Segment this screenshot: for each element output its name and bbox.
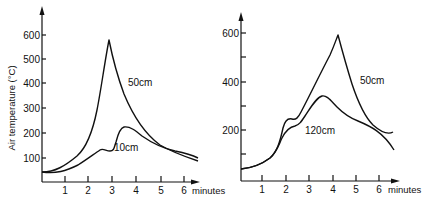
x-tick-label: 4 <box>330 184 336 195</box>
y-tick-label: 300 <box>23 103 40 114</box>
x-axis-arrow-icon <box>391 179 400 184</box>
y-tick-label: 200 <box>23 128 40 139</box>
series-label-10cm: 10cm <box>114 142 138 153</box>
x-tick-label: 2 <box>283 184 289 195</box>
y-tick-label: 200 <box>222 125 239 136</box>
y-axis-label: Air temperature (°C) <box>6 65 17 150</box>
y-axis-arrow-icon <box>239 12 244 21</box>
x-axis-arrow-icon <box>191 180 200 185</box>
x-tick-label: 1 <box>259 184 265 195</box>
y-tick-label: 600 <box>222 28 239 39</box>
left-chart: 600 500 400 300 200 100 1 2 3 4 5 6 minu… <box>6 6 226 196</box>
right-y-ticks: 600 400 200 <box>222 28 246 155</box>
y-tick-label: 100 <box>23 153 40 164</box>
x-tick-label: 5 <box>353 184 359 195</box>
x-tick-label: 2 <box>85 185 91 196</box>
x-tick-label: 3 <box>306 184 312 195</box>
x-tick-label: 3 <box>109 185 115 196</box>
x-axis-label: minutes <box>388 184 422 195</box>
x-tick-label: 6 <box>181 185 187 196</box>
x-tick-label: 4 <box>133 185 139 196</box>
y-tick-label: 400 <box>222 77 239 88</box>
series-label-120cm: 120cm <box>305 125 335 136</box>
series-50cm-right <box>241 35 393 169</box>
y-tick-label: 500 <box>23 54 40 65</box>
right-x-ticks: 1 2 3 4 5 6 minutes <box>259 175 421 195</box>
series-label-50cm: 50cm <box>128 77 152 88</box>
x-tick-label: 5 <box>158 185 164 196</box>
series-label-50cm: 50cm <box>360 75 384 86</box>
y-tick-label: 400 <box>23 78 40 89</box>
y-tick-label: 600 <box>23 30 40 41</box>
x-tick-label: 6 <box>376 184 382 195</box>
y-axis-arrow-icon <box>40 6 45 15</box>
left-x-ticks: 1 2 3 4 5 6 minutes <box>62 176 225 196</box>
right-chart: 600 400 200 1 2 3 4 5 6 minutes 50cm 120… <box>222 12 421 195</box>
figure: 600 500 400 300 200 100 1 2 3 4 5 6 minu… <box>0 0 425 200</box>
x-tick-label: 1 <box>62 185 68 196</box>
x-axis-label: minutes <box>192 185 226 196</box>
